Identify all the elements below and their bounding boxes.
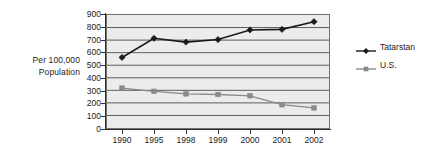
gridlines — [107, 15, 329, 128]
y-tick-mark — [101, 91, 105, 92]
y-tick-label: 100 — [75, 111, 101, 121]
legend-item[interactable]: U.S. — [356, 56, 442, 74]
x-tick-mark — [250, 130, 251, 134]
y-tick-mark — [101, 129, 105, 130]
y-tick-mark — [101, 78, 105, 79]
y-tick-label: 800 — [75, 22, 101, 32]
y-tick-mark — [101, 116, 105, 117]
legend-label: Tatarstan — [376, 42, 415, 52]
x-tick-label: 2002 — [294, 135, 334, 145]
y-tick-label: 900 — [75, 9, 101, 19]
y-axis-title-line-1: Per 100,000 — [6, 55, 80, 67]
y-axis-title: Per 100,000 Population — [6, 55, 80, 78]
x-tick-mark — [122, 130, 123, 134]
y-axis-line — [105, 13, 106, 130]
y-tick-mark — [101, 65, 105, 66]
y-tick-label: 300 — [75, 86, 101, 96]
y-tick-mark — [101, 52, 105, 53]
y-tick-label: 500 — [75, 60, 101, 70]
legend-item[interactable]: Tatarstan — [356, 38, 442, 56]
x-tick-mark — [218, 130, 219, 134]
y-tick-label: 600 — [75, 47, 101, 57]
plot-area — [106, 14, 330, 129]
diamond-marker-icon — [356, 42, 376, 52]
x-tick-mark — [154, 130, 155, 134]
x-tick-mark — [314, 130, 315, 134]
y-tick-label: 400 — [75, 73, 101, 83]
y-axis-tick-labels: 9008007006005004003002001000 — [72, 0, 101, 151]
square-marker-icon — [356, 60, 376, 70]
y-tick-mark — [101, 40, 105, 41]
legend-label: U.S. — [376, 60, 397, 70]
x-tick-mark — [186, 130, 187, 134]
chart-legend: TatarstanU.S. — [356, 38, 442, 74]
y-axis-title-line-2: Population — [6, 67, 80, 79]
chart-figure: Per 100,000 Population 90080070060050040… — [0, 0, 443, 151]
y-tick-mark — [101, 27, 105, 28]
y-tick-label: 0 — [75, 124, 101, 134]
y-tick-label: 200 — [75, 98, 101, 108]
y-tick-mark — [101, 103, 105, 104]
y-tick-label: 700 — [75, 35, 101, 45]
y-tick-mark — [101, 14, 105, 15]
x-tick-mark — [282, 130, 283, 134]
